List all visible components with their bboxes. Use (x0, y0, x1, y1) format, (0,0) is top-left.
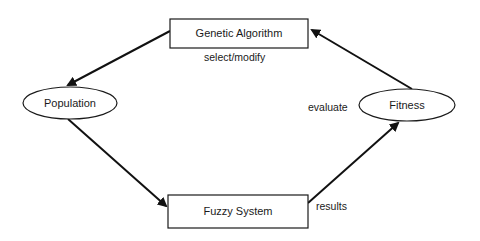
edge-label-evaluate: evaluate (308, 101, 348, 113)
edge-ga-to-population (68, 31, 170, 85)
ga-fuzzy-cycle-diagram: Genetic Algorithm Population Fitness Fuz… (0, 0, 480, 241)
node-label: Genetic Algorithm (196, 27, 283, 39)
edge-population-to-fuzzy (68, 119, 166, 206)
edge-fitness-to-ga (312, 30, 412, 89)
arrow-icon (68, 119, 166, 206)
edge-fuzzy-to-fitness (308, 123, 398, 203)
node-population: Population (23, 87, 117, 119)
node-genetic-algorithm: Genetic Algorithm (170, 19, 308, 48)
node-label: Fitness (389, 99, 425, 111)
edge-label-results: results (316, 200, 347, 212)
node-label: Fuzzy System (203, 205, 272, 217)
node-fuzzy-system: Fuzzy System (168, 195, 308, 228)
node-fitness: Fitness (359, 89, 455, 121)
node-label: Population (44, 97, 96, 109)
arrow-icon (68, 31, 170, 85)
arrow-icon (308, 123, 398, 203)
edge-label-select-modify: select/modify (204, 51, 266, 63)
arrow-icon (312, 30, 412, 89)
